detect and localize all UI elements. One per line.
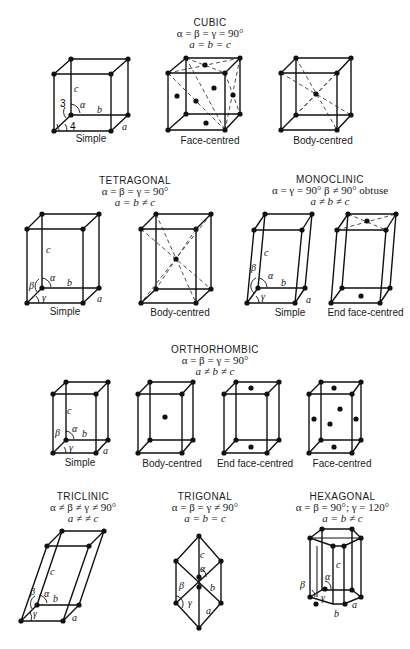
label-b: b xyxy=(82,428,87,439)
label-c: c xyxy=(67,405,72,416)
tetragonal-body-centred-cell xyxy=(138,211,213,305)
label-gamma: γ xyxy=(188,597,193,608)
label-a: a xyxy=(72,612,77,623)
label-alpha: α xyxy=(325,571,331,582)
label-b: b xyxy=(281,277,286,288)
label-a: a xyxy=(306,294,311,305)
orthorhombic-face-centred-cell xyxy=(306,379,363,455)
label-a: a xyxy=(122,121,127,132)
label-c: c xyxy=(46,244,51,255)
hexagonal-cell: c α β γ a b xyxy=(299,526,364,619)
label-alpha: α xyxy=(80,99,86,110)
label-4: 4 xyxy=(70,121,76,132)
label-gamma: γ xyxy=(69,442,74,453)
crystal-lattice-drawings: c α b a 3 4 c α b xyxy=(0,0,410,649)
tetragonal-simple-cell: c α b β γ a xyxy=(24,211,102,305)
label-alpha: α xyxy=(50,272,56,283)
label-c: c xyxy=(264,247,269,258)
label-a: a xyxy=(352,599,357,610)
label-beta: β xyxy=(28,280,34,291)
monoclinic-end-face-centred-cell xyxy=(328,211,398,305)
label-a: a xyxy=(103,445,108,456)
label-beta: β xyxy=(299,579,305,590)
cubic-body-centred-cell xyxy=(278,55,353,132)
cubic-face-centred-cell xyxy=(165,55,242,132)
label-gamma: γ xyxy=(261,291,266,302)
label-a: a xyxy=(97,293,102,304)
label-gamma: γ xyxy=(42,292,47,303)
label-b: b xyxy=(67,277,72,288)
label-c: c xyxy=(336,559,341,570)
label-c: c xyxy=(200,549,205,560)
label-beta: β xyxy=(54,427,60,438)
label-alpha: α xyxy=(72,423,78,434)
label-c: c xyxy=(50,566,55,577)
triclinic-cell: c α b β γ a xyxy=(18,528,106,623)
label-alpha: α xyxy=(200,563,206,574)
label-gamma: γ xyxy=(33,608,38,619)
label-alpha: α xyxy=(44,588,50,599)
label-b: b xyxy=(97,104,102,115)
label-beta: β xyxy=(250,262,256,273)
orthorhombic-end-face-centred-cell xyxy=(221,379,281,455)
label-b: b xyxy=(334,608,339,619)
label-alpha: α xyxy=(268,270,274,281)
monoclinic-simple-cell: c α b β γ a xyxy=(244,211,314,305)
orthorhombic-simple-cell: c α b β γ a xyxy=(50,379,110,456)
label-c: c xyxy=(74,83,79,94)
label-beta: β xyxy=(178,580,184,591)
label-b: b xyxy=(53,593,58,604)
label-b: b xyxy=(210,582,215,593)
trigonal-cell: c α b β γ a xyxy=(173,533,223,630)
label-a: a xyxy=(206,605,211,616)
orthorhombic-body-centred-cell xyxy=(135,379,195,455)
label-3: 3 xyxy=(60,98,66,109)
label-beta: β xyxy=(29,586,35,597)
cubic-simple-cell: c α b a 3 4 xyxy=(51,56,130,133)
